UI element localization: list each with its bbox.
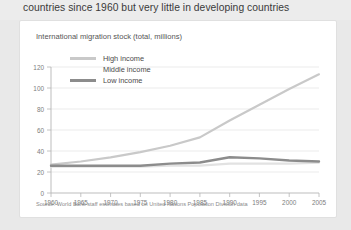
legend-swatch-low-income (70, 79, 96, 82)
chart-legend: High income Middle income Low income (70, 53, 220, 86)
y-tick-label: 0 (40, 190, 44, 197)
line-chart-svg: 120 100 80 60 40 20 0 1960 1965 1970 197… (20, 21, 336, 217)
x-tick-label: 2005 (312, 199, 327, 206)
chart-source-note: Source: World Bank staff estimates based… (36, 201, 248, 207)
legend-swatch-high-income (70, 57, 96, 60)
legend-item-middle-income[interactable]: Middle income (70, 64, 220, 75)
y-tick-label: 80 (37, 106, 45, 113)
page-headline: countries since 1960 but very little in … (23, 1, 333, 15)
legend-label-low-income: Low income (103, 76, 142, 85)
legend-label-high-income: High income (103, 54, 144, 63)
legend-swatch-middle-income (70, 68, 96, 71)
legend-label-middle-income: Middle income (103, 65, 151, 74)
y-tick-label: 100 (33, 85, 44, 92)
y-tick-label: 40 (37, 148, 45, 155)
page-root: countries since 1960 but very little in … (0, 0, 351, 230)
y-tick-label: 120 (33, 64, 44, 71)
legend-item-high-income[interactable]: High income (70, 53, 220, 64)
y-axis-labels: 120 100 80 60 40 20 0 (33, 64, 44, 197)
y-tick-label: 60 (37, 127, 45, 134)
chart-card: International migration stock (total, mi… (19, 20, 337, 218)
legend-item-low-income[interactable]: Low income (70, 75, 220, 86)
headline-strip: countries since 1960 but very little in … (0, 0, 351, 20)
x-tick-label: 1995 (252, 199, 267, 206)
x-tick-marks (51, 193, 319, 197)
y-tick-marks (47, 67, 51, 193)
x-tick-label: 2000 (282, 199, 297, 206)
chart-plot-area: 120 100 80 60 40 20 0 1960 1965 1970 197… (20, 21, 336, 217)
y-tick-label: 20 (37, 169, 45, 176)
